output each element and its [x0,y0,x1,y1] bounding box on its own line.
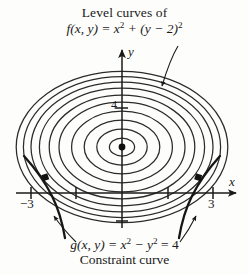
y-axis-tick-label-4: 4 [111,98,117,113]
y-axis-label: y [128,44,134,60]
plot-canvas [0,0,249,275]
level-curves-figure: Level curves of f(x, y) = x2 + (y − 2)2 [0,0,249,275]
x-axis-tick-label-neg3: −3 [20,196,34,212]
x-axis-label: x [229,174,235,190]
constraint-equation: g(x, y) = x2 − y2 = 4 [0,238,249,252]
constraint-curve-label: Constraint curve [0,253,249,267]
center-point-marker [119,144,126,151]
x-axis-tick-label-pos3: 3 [208,196,215,212]
constraint-expression-suffix: = 4 [158,237,179,252]
constraint-expression-prefix: g(x, y) = x [70,237,126,252]
figure-bottom-caption: g(x, y) = x2 − y2 = 4 Constraint curve [0,238,249,267]
constraint-expression-mid: − y [131,237,153,252]
